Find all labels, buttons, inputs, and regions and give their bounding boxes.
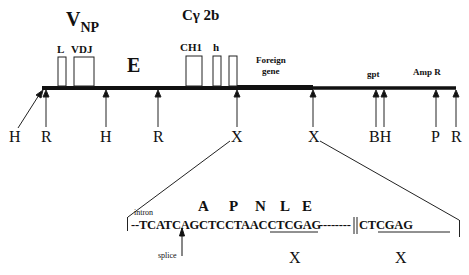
exon-h-label: h (213, 42, 219, 53)
site-label-X1: X (231, 129, 243, 145)
zoom-line-left (128, 141, 230, 217)
exon-CH1-box (186, 56, 202, 86)
exon-VDJ-box (74, 57, 94, 86)
site-arrow-H1-diagonal (18, 90, 43, 128)
site-label-P: P (431, 129, 440, 145)
site-label-BH: BH (369, 129, 391, 145)
foreign-gene-label-1: Foreign (256, 56, 286, 65)
site-arrow-R2 (155, 90, 161, 127)
enhancer-label: E (127, 55, 140, 75)
foreign-gene-label-2: gene (262, 67, 280, 76)
exon-L-box (58, 57, 66, 86)
site-arrow-H3 (381, 90, 387, 127)
site-arrow-P (433, 90, 439, 127)
xho-site-label-2: X (395, 250, 407, 266)
site-arrow-R3 (453, 90, 459, 127)
site-arrow-X1 (234, 90, 240, 127)
zoom-line-right (320, 141, 459, 220)
site-arrow-B (373, 90, 379, 127)
exon-ch2-box (229, 56, 237, 86)
sequence-gap: -------- (319, 219, 351, 232)
amino-acid-N: N (255, 199, 266, 214)
site-arrow-R1 (43, 90, 49, 127)
amino-acid-L: L (280, 199, 290, 214)
c-region-label: Cγ 2b (182, 8, 219, 23)
exon-CH1-label: CH1 (180, 42, 202, 53)
exon-L-label: L (57, 44, 64, 55)
amino-acid-A: A (198, 199, 209, 214)
site-label-H2: H (100, 129, 112, 145)
xho-site-label-1: X (289, 250, 301, 266)
exon-VDJ-label: VDJ (71, 44, 92, 55)
sequence-right: CTCGAG (359, 219, 413, 232)
amino-acid-E: E (302, 199, 312, 214)
site-arrow-H2 (103, 90, 109, 127)
site-label-R3: R (451, 129, 462, 145)
site-arrow-X2 (310, 90, 316, 127)
splice-label: splice (158, 252, 177, 260)
amp-label: Amp R (413, 68, 441, 77)
site-label-H1: H (9, 129, 21, 145)
amino-acid-P: P (229, 199, 238, 214)
v-region-subscript: NP (80, 20, 99, 35)
exon-h-box (213, 56, 221, 86)
gpt-label: gpt (367, 70, 380, 79)
sequence-left: --TCATCAGCTCCTAACCTCGAG (131, 219, 321, 232)
v-region-main: V (66, 8, 80, 30)
site-label-R1: R (41, 129, 52, 145)
v-region-label: VNP (66, 9, 99, 29)
splice-arrow (180, 228, 185, 256)
site-label-R2: R (153, 129, 164, 145)
site-label-X2: X (308, 129, 320, 145)
intron-label: intron (134, 209, 153, 217)
